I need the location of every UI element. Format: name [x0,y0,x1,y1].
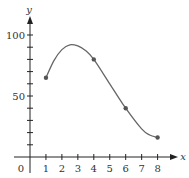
x-tick-label: 2 [59,163,65,174]
x-tick-label: 6 [123,163,129,174]
series-curve [46,45,158,138]
x-tick-label: 4 [91,163,97,174]
x-tick-label: 1 [43,163,49,174]
y-tick-label: 100 [6,30,25,41]
y-axis-label: y [25,4,32,15]
origin-label: 0 [18,163,24,174]
y-tick-label: 50 [12,91,25,102]
data-point-marker [92,57,96,61]
data-curve [46,45,158,138]
x-tick-label: 5 [107,163,113,174]
y-axis-arrow-icon [27,16,33,24]
x-tick-label: 8 [154,163,160,174]
axes [14,16,178,173]
data-point-marker [155,135,159,139]
x-axis-label: x [180,151,186,162]
data-point-marker [44,76,48,80]
axis-labels: 50100123456780yx [6,4,186,174]
line-chart: 50100123456780yx [0,0,189,178]
data-point-marker [124,106,128,110]
x-tick-label: 3 [75,163,81,174]
x-axis-arrow-icon [170,154,178,160]
x-tick-label: 7 [138,163,144,174]
data-points [44,57,160,139]
